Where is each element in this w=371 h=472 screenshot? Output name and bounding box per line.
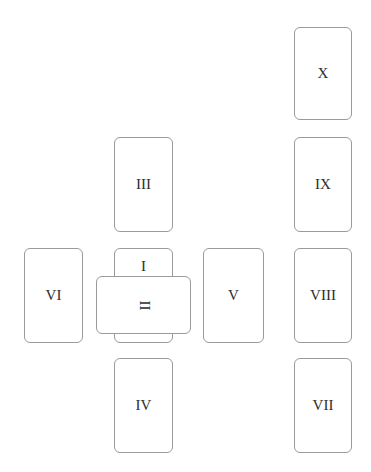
card-iv[interactable]: IV xyxy=(114,358,173,453)
card-x[interactable]: X xyxy=(294,27,352,120)
card-vii[interactable]: VII xyxy=(294,358,352,453)
card-ix-label: IX xyxy=(315,177,331,192)
card-vi[interactable]: VI xyxy=(24,248,83,343)
card-iii[interactable]: III xyxy=(114,137,173,232)
card-x-label: X xyxy=(318,66,329,81)
card-viii[interactable]: VIII xyxy=(294,248,352,343)
card-viii-label: VIII xyxy=(310,288,336,303)
card-vii-label: VII xyxy=(313,398,334,413)
card-i-label: I xyxy=(141,259,146,274)
card-iv-label: IV xyxy=(136,398,152,413)
card-vi-label: VI xyxy=(46,288,62,303)
card-ix[interactable]: IX xyxy=(294,137,352,232)
card-v[interactable]: V xyxy=(203,248,264,343)
card-ii[interactable]: II xyxy=(96,276,191,334)
card-iii-label: III xyxy=(136,177,151,192)
card-v-label: V xyxy=(228,288,239,303)
card-ii-label: II xyxy=(136,300,151,310)
